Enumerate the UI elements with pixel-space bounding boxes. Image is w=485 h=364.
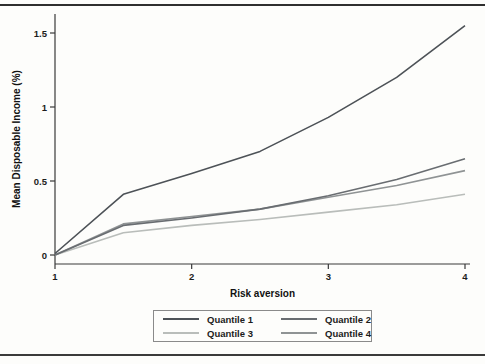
y-tick-label: 1: [42, 102, 48, 113]
plot-svg: 00.511.51234: [0, 0, 485, 310]
bottom-rule: [0, 354, 485, 356]
legend-item-quantile-2: Quantile 2: [281, 314, 371, 325]
legend-item-quantile-1: Quantile 1: [163, 314, 281, 325]
chart-area: 00.511.51234 Mean Disposable Income (%) …: [0, 0, 485, 310]
legend-label-quantile-3: Quantile 3: [207, 328, 253, 339]
legend-label-quantile-1: Quantile 1: [207, 314, 253, 325]
quantile-1-line-swatch: [163, 318, 199, 320]
quantile-2-line-swatch: [281, 318, 317, 320]
legend-item-quantile-3: Quantile 3: [163, 328, 281, 339]
y-axis-title: Mean Disposable Income (%): [11, 70, 22, 208]
quantile-4-line-swatch: [281, 332, 317, 334]
legend-label-quantile-4: Quantile 4: [325, 328, 371, 339]
x-tick-label: 4: [462, 271, 468, 282]
y-tick-label: 1.5: [34, 28, 48, 39]
legend-item-quantile-4: Quantile 4: [281, 328, 371, 339]
y-tick-label: 0: [42, 250, 47, 261]
x-tick-label: 3: [326, 271, 331, 282]
x-tick-label: 1: [52, 271, 58, 282]
series-line-quantile-4: [55, 171, 465, 255]
y-tick-label: 0.5: [34, 176, 48, 187]
series-line-quantile-3: [55, 194, 465, 255]
x-tick-label: 2: [189, 271, 194, 282]
x-axis-title: Risk aversion: [55, 288, 470, 299]
series-line-quantile-2: [55, 159, 465, 255]
quantile-3-line-swatch: [163, 332, 199, 334]
legend: Quantile 1 Quantile 2 Quantile 3 Quantil…: [153, 310, 372, 342]
legend-label-quantile-2: Quantile 2: [325, 314, 371, 325]
